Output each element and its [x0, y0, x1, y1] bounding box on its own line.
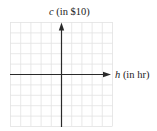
y-axis-arrow-icon [59, 23, 64, 31]
x-axis [10, 72, 111, 77]
x-axis-label: h (in hr) [115, 70, 149, 81]
grid-svg [0, 0, 157, 131]
x-axis-unit: (in hr) [120, 69, 149, 80]
x-axis-arrow-icon [103, 72, 111, 77]
y-axis-unit: (in $10) [54, 6, 90, 17]
y-axis-label: c (in $10) [49, 7, 90, 18]
coordinate-grid-chart: c (in $10) h (in hr) [0, 0, 157, 131]
